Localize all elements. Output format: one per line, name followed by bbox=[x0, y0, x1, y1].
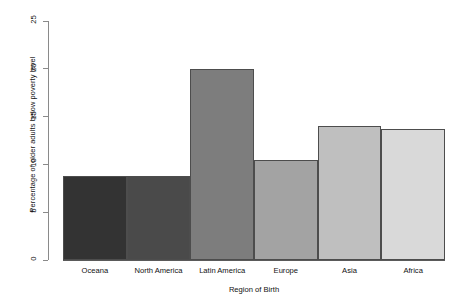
x-axis-tick-label-africa: Africa bbox=[381, 266, 445, 275]
bar-chart-figure: Percentage of older adults below poverty… bbox=[0, 0, 449, 308]
bar-africa bbox=[381, 129, 445, 260]
x-axis-tick-label-north-america: North America bbox=[127, 266, 191, 275]
x-axis-line bbox=[63, 260, 445, 261]
x-axis-tick-label-oceana: Oceana bbox=[63, 266, 127, 275]
x-axis-title: Region of Birth bbox=[63, 285, 445, 294]
plot-area bbox=[0, 0, 449, 308]
x-axis-tick-label-europe: Europe bbox=[254, 266, 318, 275]
bar-latin-america bbox=[190, 69, 254, 260]
x-axis-tick-label-asia: Asia bbox=[318, 266, 382, 275]
bar-europe bbox=[254, 160, 318, 260]
bar-asia bbox=[318, 126, 382, 260]
caption-strip bbox=[0, 300, 449, 308]
bar-oceana bbox=[63, 176, 127, 260]
bar-north-america bbox=[127, 176, 191, 260]
x-axis-tick-label-latin-america: Latin America bbox=[190, 266, 254, 275]
